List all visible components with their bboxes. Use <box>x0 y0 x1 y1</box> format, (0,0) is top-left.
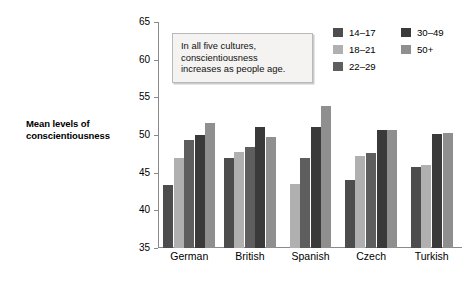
x-axis-category-label: German <box>170 250 208 262</box>
legend-item[interactable]: 30–49 <box>401 27 444 38</box>
y-axis-tick-mark <box>154 135 158 136</box>
bar[interactable] <box>311 127 321 248</box>
legend-swatch-icon <box>401 28 411 37</box>
bar[interactable] <box>443 133 453 248</box>
x-axis-category-label: British <box>235 250 264 262</box>
bar[interactable] <box>377 130 387 248</box>
bar[interactable] <box>387 130 397 248</box>
x-axis-category-labels: GermanBritishSpanishCzechTurkish <box>158 250 462 266</box>
legend-swatch-icon <box>401 45 411 54</box>
legend-item[interactable]: 18–21 <box>333 44 376 55</box>
legend-column-1: 14–1718–2122–29 <box>333 27 376 78</box>
y-axis-tick-label: 50 <box>130 129 150 140</box>
y-axis-tick-label: 65 <box>130 16 150 27</box>
bar[interactable] <box>421 165 431 248</box>
legend-item[interactable]: 22–29 <box>333 61 376 72</box>
chart-legend: 14–1718–2122–29 30–4950+ <box>333 27 469 77</box>
y-axis-tick-mark <box>154 97 158 98</box>
y-axis-tick-label: 55 <box>130 91 150 102</box>
bar[interactable] <box>224 158 234 248</box>
annotation-line-1: In all five cultures, <box>181 40 305 52</box>
legend-column-2: 30–4950+ <box>401 27 444 61</box>
y-axis-title-line-2: conscientiousness <box>26 130 138 142</box>
x-axis-category-label: Turkish <box>415 250 449 262</box>
bar[interactable] <box>300 158 310 248</box>
y-axis-tick-mark <box>154 173 158 174</box>
bar-chart-figure: Mean levels of conscientiousness 6560555… <box>0 0 474 281</box>
x-axis-category-label: Czech <box>356 250 386 262</box>
bar[interactable] <box>366 153 376 248</box>
bar[interactable] <box>234 152 244 248</box>
legend-label: 18–21 <box>349 44 376 55</box>
y-axis-title: Mean levels of conscientiousness <box>26 118 138 141</box>
bar[interactable] <box>266 137 276 248</box>
legend-item[interactable]: 50+ <box>401 44 444 55</box>
annotation-line-3: increases as people age. <box>181 63 305 75</box>
y-axis-tick-mark <box>154 22 158 23</box>
bar[interactable] <box>205 123 215 248</box>
y-axis-tick-mark <box>154 210 158 211</box>
bar[interactable] <box>432 134 442 248</box>
y-axis-tick-label: 40 <box>130 204 150 215</box>
bar[interactable] <box>245 147 255 248</box>
legend-label: 50+ <box>417 44 433 55</box>
legend-swatch-icon <box>333 28 343 37</box>
bar[interactable] <box>411 167 421 248</box>
legend-label: 30–49 <box>417 27 444 38</box>
y-axis-tick-labels: 65605550454035 <box>124 22 150 248</box>
y-axis-tick-label: 35 <box>130 242 150 253</box>
bar[interactable] <box>355 156 365 248</box>
bar[interactable] <box>163 185 173 248</box>
y-axis-tick-label: 45 <box>130 167 150 178</box>
bar[interactable] <box>290 184 300 248</box>
bar[interactable] <box>184 140 194 248</box>
legend-item[interactable]: 14–17 <box>333 27 376 38</box>
bar[interactable] <box>195 135 205 248</box>
legend-swatch-icon <box>333 45 343 54</box>
y-axis-tick-mark <box>154 60 158 61</box>
legend-swatch-icon <box>333 62 343 71</box>
bar[interactable] <box>255 127 265 248</box>
annotation-line-2: conscientiousness <box>181 52 305 64</box>
legend-label: 22–29 <box>349 61 376 72</box>
x-axis-category-label: Spanish <box>292 250 330 262</box>
bar[interactable] <box>345 180 355 248</box>
y-axis-tick-label: 60 <box>130 54 150 65</box>
y-axis-title-line-1: Mean levels of <box>26 118 138 130</box>
bar[interactable] <box>321 106 331 248</box>
bar[interactable] <box>174 158 184 248</box>
legend-label: 14–17 <box>349 27 376 38</box>
y-axis-tick-mark <box>154 248 158 249</box>
annotation-callout: In all five cultures, conscientiousness … <box>172 33 313 83</box>
